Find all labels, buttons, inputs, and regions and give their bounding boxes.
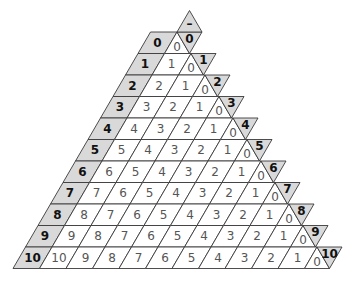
end-label: 0 xyxy=(185,32,193,46)
value: 4 xyxy=(214,251,222,265)
value: 9 xyxy=(68,229,76,243)
end-label: 9 xyxy=(311,225,319,239)
row-label: 8 xyxy=(53,208,61,222)
end-label: 10 xyxy=(321,247,338,261)
value: 5 xyxy=(160,208,168,222)
zero-value: 0 xyxy=(257,169,265,183)
value: 3 xyxy=(143,100,151,114)
end-label: 4 xyxy=(241,118,249,132)
value: 6 xyxy=(119,186,127,200)
value: 4 xyxy=(158,165,166,179)
value: 7 xyxy=(135,251,143,265)
value: 2 xyxy=(267,251,275,265)
value: 2 xyxy=(225,186,233,200)
value: 3 xyxy=(227,229,235,243)
value: 2 xyxy=(183,122,191,136)
triangle-table: 000–110122102332103443210455432105665432… xyxy=(0,0,361,281)
zero-value: 0 xyxy=(201,83,209,97)
row-label: 7 xyxy=(66,186,74,200)
zero-value: 0 xyxy=(187,61,195,75)
row-label: 6 xyxy=(78,165,86,179)
value: 3 xyxy=(157,122,165,136)
value: 4 xyxy=(200,229,208,243)
value: 5 xyxy=(118,143,126,157)
value: 6 xyxy=(147,229,155,243)
row-label: 1 xyxy=(141,57,149,71)
value: 8 xyxy=(108,251,116,265)
value: 6 xyxy=(133,208,141,222)
value: 1 xyxy=(210,122,218,136)
value: 5 xyxy=(188,251,196,265)
zero-value: 0 xyxy=(313,255,321,269)
zero-value: 0 xyxy=(229,126,237,140)
value: 4 xyxy=(144,143,152,157)
value: 7 xyxy=(121,229,129,243)
value: 1 xyxy=(196,100,204,114)
value: 2 xyxy=(211,165,219,179)
end-label: 8 xyxy=(297,204,305,218)
zero-value: 0 xyxy=(285,212,293,226)
value: 1 xyxy=(224,143,232,157)
value: 2 xyxy=(169,100,177,114)
end-label: 6 xyxy=(269,161,277,175)
value: 5 xyxy=(132,165,140,179)
value: 7 xyxy=(107,208,115,222)
apex-cell: – xyxy=(177,11,202,33)
value: 2 xyxy=(239,208,247,222)
value: 1 xyxy=(168,57,176,71)
value: 2 xyxy=(197,143,205,157)
zero-value: 0 xyxy=(173,40,181,54)
end-label: 2 xyxy=(213,75,221,89)
zero-value: 0 xyxy=(215,104,223,118)
end-label: 3 xyxy=(227,96,235,110)
value: 3 xyxy=(213,208,221,222)
value: 3 xyxy=(185,165,193,179)
value: 2 xyxy=(253,229,261,243)
value: 5 xyxy=(174,229,182,243)
end-label: 1 xyxy=(199,53,207,67)
value: 5 xyxy=(146,186,154,200)
zero-value: 0 xyxy=(299,233,307,247)
value: 1 xyxy=(252,186,260,200)
apex-label: – xyxy=(187,17,193,31)
value: 3 xyxy=(199,186,207,200)
value: 6 xyxy=(161,251,169,265)
value: 1 xyxy=(182,79,190,93)
value: 1 xyxy=(238,165,246,179)
row-label: 9 xyxy=(41,229,49,243)
end-label: 5 xyxy=(255,139,263,153)
zero-value: 0 xyxy=(271,190,279,204)
row-label: 4 xyxy=(103,122,111,136)
row-label: 5 xyxy=(91,143,99,157)
row-label: 2 xyxy=(128,79,136,93)
row-label: 10 xyxy=(24,251,41,265)
value: 2 xyxy=(155,79,163,93)
value: 3 xyxy=(241,251,249,265)
row-label: 0 xyxy=(153,36,161,50)
end-label: 7 xyxy=(283,182,291,196)
value: 3 xyxy=(171,143,179,157)
value: 1 xyxy=(294,251,302,265)
value: 4 xyxy=(130,122,138,136)
value: 1 xyxy=(280,229,288,243)
value: 8 xyxy=(80,208,88,222)
value: 7 xyxy=(93,186,101,200)
value: 6 xyxy=(105,165,113,179)
value: 10 xyxy=(51,251,66,265)
value: 9 xyxy=(82,251,90,265)
value: 4 xyxy=(172,186,180,200)
value: 8 xyxy=(94,229,102,243)
zero-value: 0 xyxy=(243,147,251,161)
value: 4 xyxy=(186,208,194,222)
row-label: 3 xyxy=(116,100,124,114)
value: 1 xyxy=(266,208,274,222)
